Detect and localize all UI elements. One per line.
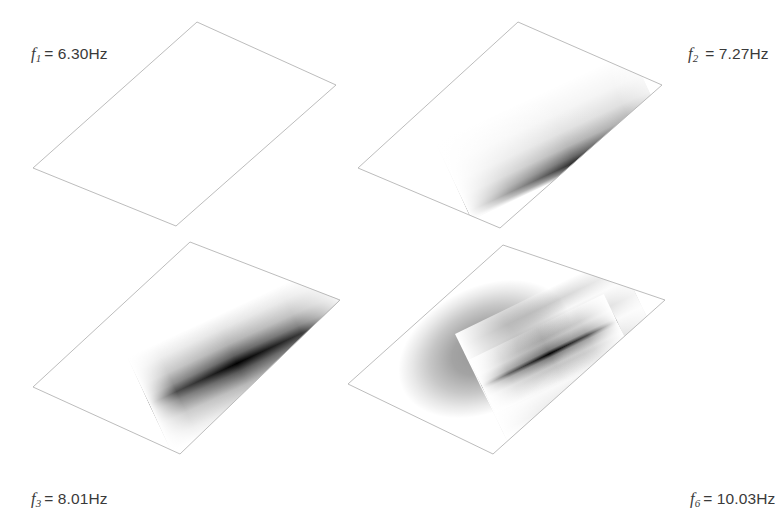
- frequency-symbol-3: f: [31, 489, 36, 508]
- mode-panel-6: f6= 10.03Hz: [345, 232, 690, 464]
- mode-label-2: f2= 7.27Hz: [688, 46, 769, 64]
- mode-label-1: f1= 6.30Hz: [31, 46, 108, 64]
- frequency-value-6: = 10.03Hz: [701, 490, 775, 507]
- mode-plot-3: [0, 232, 345, 464]
- mode-panel-2: f2= 7.27Hz: [345, 0, 690, 232]
- mode-field-3: [127, 266, 345, 451]
- mode-field-1: [0, 0, 345, 232]
- frequency-value-2: = 7.27Hz: [699, 45, 768, 62]
- frequency-value-3: = 8.01Hz: [42, 490, 107, 507]
- frequency-value-1: = 6.30Hz: [42, 45, 107, 62]
- mode-plot-6: [345, 232, 690, 464]
- mode-field-6: [375, 252, 670, 446]
- mode-label-3: f3= 8.01Hz: [31, 491, 108, 509]
- frequency-symbol-2: f: [688, 44, 693, 63]
- mode-label-6: f6= 10.03Hz: [690, 491, 775, 509]
- mode-panel-1: f1= 6.30Hz: [0, 0, 345, 232]
- mode-plot-2: [345, 0, 690, 232]
- frequency-symbol-1: f: [31, 44, 36, 63]
- frequency-symbol-6: f: [690, 489, 695, 508]
- mode-field-2: [435, 51, 666, 220]
- mode-plot-1: [0, 0, 345, 232]
- mode-panel-3: f3= 8.01Hz: [0, 232, 345, 464]
